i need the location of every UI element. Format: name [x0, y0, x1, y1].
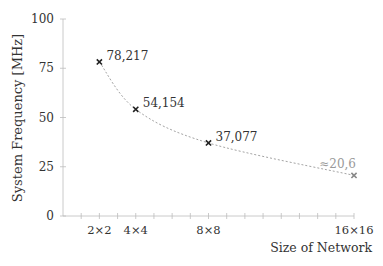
- x-tick-label: 4×4: [124, 223, 148, 237]
- axes: 02550751002×24×48×816×16: [31, 12, 373, 237]
- data-label: ≈20,6: [319, 157, 356, 171]
- data-label: 54,154: [143, 96, 185, 110]
- chart: 02550751002×24×48×816×16 78,21754,15437,…: [0, 0, 383, 266]
- y-tick-label: 50: [39, 111, 54, 125]
- data-label: 37,077: [216, 130, 258, 144]
- y-tick-label: 0: [46, 209, 54, 223]
- data-point-marker: [133, 107, 138, 112]
- data-point-marker: [351, 173, 356, 178]
- x-tick-label: 8×8: [196, 223, 220, 237]
- y-axis-label: System Frequency [MHz]: [10, 34, 25, 202]
- y-tick-label: 25: [39, 160, 54, 174]
- data-point-marker: [97, 59, 102, 64]
- data-points: 78,21754,15437,077≈20,6: [97, 49, 357, 178]
- data-label: 78,217: [106, 49, 148, 63]
- data-point-marker: [206, 140, 211, 145]
- x-tick-label: 2×2: [87, 223, 111, 237]
- x-tick-label: 16×16: [335, 223, 374, 237]
- y-tick-label: 75: [39, 61, 54, 75]
- y-tick-label: 100: [31, 12, 54, 26]
- trend-curve: [99, 62, 354, 176]
- x-axis-label: Size of Network: [270, 240, 372, 255]
